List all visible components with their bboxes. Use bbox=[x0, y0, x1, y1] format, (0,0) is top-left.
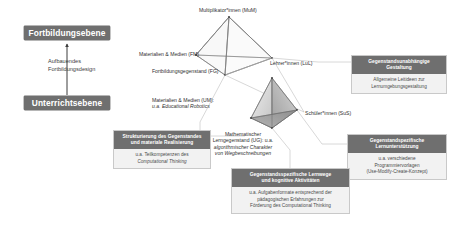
callout-body: u.a. Teilkompetenzen des Computational T… bbox=[114, 149, 210, 168]
arrow-caption-line-1: Aufbauendes bbox=[48, 58, 122, 66]
callout-title-line-2: Gestaltung bbox=[355, 65, 443, 71]
callout-title: Gegenstandsunabhängige Gestaltung bbox=[352, 56, 446, 74]
callout-gegenstandspezifische-lernunterstuetzung: Gegenstandspezifische Lernunterstützung … bbox=[347, 134, 447, 180]
vertex-label-multiplikatorinnen: Multiplikator*innen (MuM) bbox=[199, 7, 257, 13]
vertex-label-lehrerinnen: Lehrer*innen (LuL) bbox=[270, 60, 312, 66]
callout-gegenstandsunabhaengige-gestaltung: Gegenstandsunabhängige Gestaltung Allgem… bbox=[351, 55, 447, 94]
vertex-label-ug-sub: algorithmischer Charakter bbox=[214, 144, 272, 150]
callout-body-line-2: Computational Thinking bbox=[137, 159, 186, 164]
vertex-label-schuelerinnen: Schüler*innen (SuS) bbox=[305, 110, 351, 116]
callout-title: Gegenstandsspezifische Lernwege und kogn… bbox=[232, 169, 349, 187]
callout-title-line-2: Lernunterstützung bbox=[351, 144, 443, 150]
callout-body: Allgemeine Leitideen zur Lernumgebungsge… bbox=[352, 74, 446, 93]
level-banner-label: Fortbildungsebene bbox=[28, 28, 105, 38]
vertex-label-ug-sub2: von Wegbeschreibungen bbox=[215, 150, 271, 156]
vertex-label-mathematischer-lerngegenstand: Mathematischer Lerngegenstand (UG): u.a.… bbox=[200, 131, 286, 156]
vertex-dot-mum bbox=[228, 16, 230, 18]
level-banner-label: Unterrichtsebene bbox=[32, 98, 102, 108]
level-banner-unterrichtsebene: Unterrichtsebene bbox=[24, 96, 110, 110]
callout-body-line-1: u.a. Aufgabenformate entsprechend der bbox=[236, 190, 345, 196]
callout-title: Strukturierung des Gegenstandes und mate… bbox=[114, 131, 210, 149]
callout-gegenstandsspezifische-lernwege: Gegenstandsspezifische Lernwege und kogn… bbox=[231, 168, 350, 214]
callout-strukturierung-des-gegenstandes: Strukturierung des Gegenstandes und mate… bbox=[113, 130, 211, 169]
arrow-caption: Aufbauendes Fortbildungsdesign bbox=[48, 58, 122, 73]
level-banner-fortbildungsebene: Fortbildungsebene bbox=[24, 26, 110, 40]
callout-body: u.a. Aufgabenformate entsprechend der pä… bbox=[232, 187, 349, 213]
arrow-caption-line-2: Fortbildungsdesign bbox=[48, 66, 122, 74]
lower-tetrahedron-shape bbox=[250, 77, 298, 129]
callout-body: u.a. verschiedene Programmiervorlagen (U… bbox=[348, 153, 446, 179]
vertex-dot-um bbox=[250, 117, 252, 119]
callout-title-line-2: und materiale Realisierung bbox=[117, 140, 207, 146]
callout-body-line-3: Förderung des Computational Thinking bbox=[236, 203, 345, 209]
callout-body-line-3: (Use-Modify-Create-Konzept) bbox=[352, 169, 442, 175]
vertex-label-materialien-medien-um: Materialien & Medien (UM): u.a. Educatio… bbox=[152, 97, 224, 110]
vertex-label-materialien-medien-fm: Materialien & Medien (FM) bbox=[139, 51, 199, 57]
vertex-label-um-sub: u.a. Educational Robotics bbox=[152, 103, 210, 109]
callout-body-line-2: Lernumgebungsgestaltung bbox=[356, 84, 442, 90]
callout-title-line-2: und kognitive Aktivitäten bbox=[235, 178, 346, 184]
callout-title: Gegenstandspezifische Lernunterstützung bbox=[348, 135, 446, 153]
diagram-canvas: Fortbildungsebene Unterrichtsebene Aufba… bbox=[0, 0, 451, 234]
vertex-dot-lul2 bbox=[271, 77, 273, 79]
vertex-label-fortbildungsgegenstand: Fortbildungsgegenstand (FG) bbox=[152, 68, 219, 74]
